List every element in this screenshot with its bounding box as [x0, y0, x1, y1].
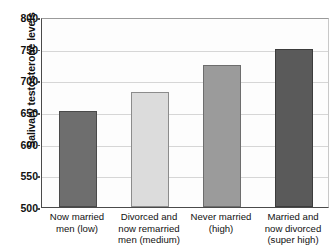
x-tick-label: Married andnow divorced(super high) [257, 211, 329, 246]
y-tick-mark [36, 81, 40, 83]
y-tick-label: 600 [4, 140, 38, 151]
y-tick-mark [36, 176, 40, 178]
y-tick-label: 800 [4, 13, 38, 24]
x-tick-label-line: now divorced [257, 223, 329, 235]
x-tick-label-line: (high) [185, 223, 257, 235]
x-tick-label-line: men (medium) [113, 234, 185, 246]
y-tick-mark [36, 145, 40, 147]
y-tick-label: 500 [4, 203, 38, 214]
bar [203, 65, 240, 207]
bar-chart-figure: Salivary testosterone levels 50055060065… [0, 0, 336, 251]
x-tick-label: Never married(high) [185, 211, 257, 234]
y-tick-mark [36, 113, 40, 115]
x-tick-label-line: Never married [185, 211, 257, 223]
y-tick-mark [36, 208, 40, 210]
x-tick-label: Now marriedmen (low) [41, 211, 113, 234]
y-tick-label: 750 [4, 45, 38, 56]
x-tick-label-line: men (low) [41, 223, 113, 235]
plot-area [41, 18, 329, 208]
x-tick-label-line: now remarried [113, 223, 185, 235]
y-tick-label: 700 [4, 76, 38, 87]
x-tick-label-line: (super high) [257, 234, 329, 246]
y-axis-ticks: 500550600650700750800 [0, 18, 38, 208]
x-tick-label-line: Divorced and [113, 211, 185, 223]
y-tick-label: 550 [4, 171, 38, 182]
y-tick-label: 650 [4, 108, 38, 119]
bar [131, 92, 168, 207]
bar [275, 49, 312, 207]
x-tick-label-line: Now married [41, 211, 113, 223]
bar [59, 111, 96, 207]
y-tick-mark [36, 50, 40, 52]
x-axis-labels: Now marriedmen (low)Divorced andnow rema… [41, 211, 329, 251]
x-tick-label-line: Married and [257, 211, 329, 223]
y-tick-mark [36, 18, 40, 20]
x-tick-label: Divorced andnow remarriedmen (medium) [113, 211, 185, 246]
